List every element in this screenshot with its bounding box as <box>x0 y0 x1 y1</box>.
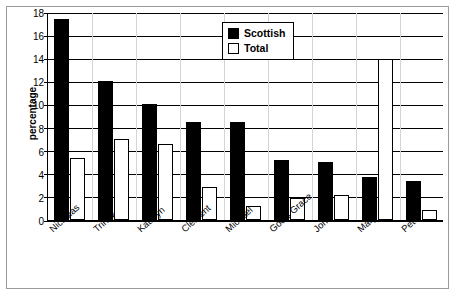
bar-scottish-0 <box>54 19 69 220</box>
bar-group <box>48 13 92 220</box>
y-tick-label: 14 <box>33 54 44 65</box>
bar-group <box>136 13 180 220</box>
bar-scottish-2 <box>142 104 157 220</box>
y-tick-label: 18 <box>33 8 44 19</box>
y-tick-label: 12 <box>33 77 44 88</box>
x-label-cell: John <box>311 222 351 282</box>
y-axis-title: percentage <box>27 54 38 174</box>
legend-item-scottish: Scottish <box>228 26 285 41</box>
legend-swatch-scottish <box>228 28 239 39</box>
y-tick-label: 16 <box>33 31 44 42</box>
bar-scottish-4 <box>230 122 245 220</box>
legend-item-total: Total <box>228 41 285 56</box>
x-label-cell: Kathryn <box>135 222 175 282</box>
bar-total-8 <box>422 210 437 220</box>
legend-label-scottish: Scottish <box>244 28 285 39</box>
bar-scottish-3 <box>186 122 201 220</box>
bar-total-6 <box>334 195 349 220</box>
bar-group <box>180 13 224 220</box>
legend-swatch-total <box>228 43 239 54</box>
x-label-cell: Clement <box>179 222 219 282</box>
bar-chart: percentage 024681012141618 NicholasTrini… <box>0 0 457 297</box>
bar-group <box>92 13 136 220</box>
x-label-cell: Nicholas <box>47 222 87 282</box>
bar-group <box>355 13 399 220</box>
x-axis-labels: NicholasTrinityKathrynClementMichaelGod'… <box>47 222 443 284</box>
bar-total-1 <box>114 139 129 220</box>
x-label-cell: God's Grace <box>267 222 307 282</box>
bar-group <box>399 13 443 220</box>
x-label-cell: Trinity <box>91 222 131 282</box>
bar-scottish-1 <box>98 81 113 220</box>
x-label-cell: Michael <box>223 222 263 282</box>
chart-legend: Scottish Total <box>222 22 294 60</box>
x-label-cell: Peter <box>399 222 439 282</box>
legend-label-total: Total <box>244 43 268 54</box>
y-tick-label: 10 <box>33 100 44 111</box>
bar-group <box>311 13 355 220</box>
bar-total-7 <box>378 59 393 220</box>
x-label-cell: Mary <box>355 222 395 282</box>
